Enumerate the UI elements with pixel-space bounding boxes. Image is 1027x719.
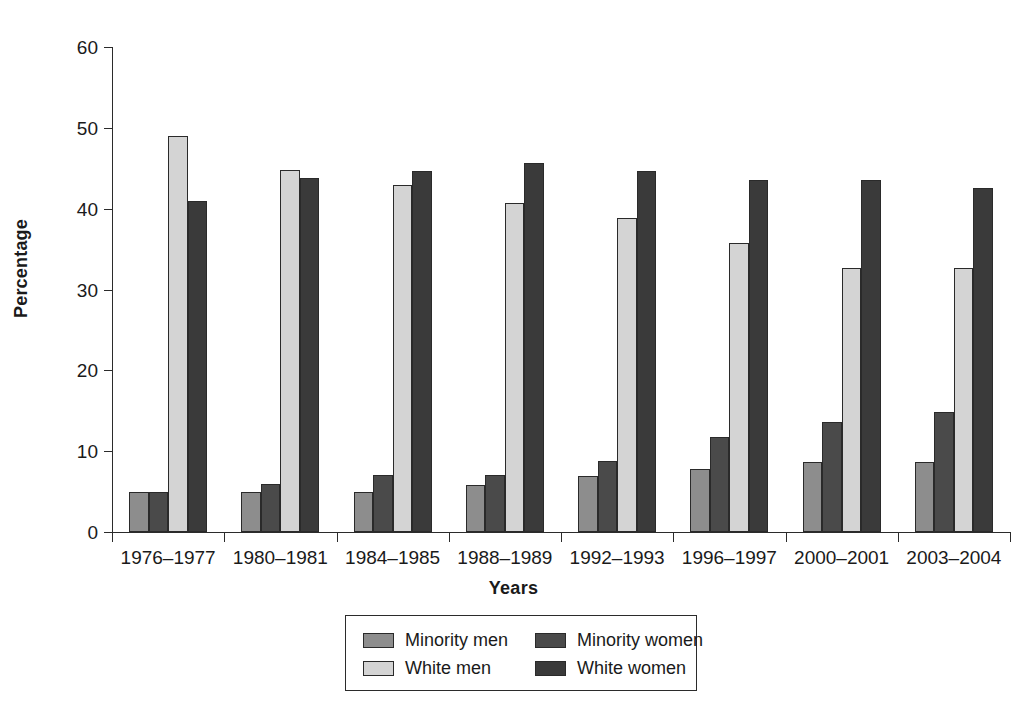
x-tick-label: 2003–2004: [894, 548, 1014, 567]
legend-swatch-icon: [535, 633, 566, 648]
x-tick-mark: [224, 533, 225, 542]
bar-white-women-2003–2004: [973, 188, 993, 532]
bar-white-men-1996–1997: [729, 243, 749, 532]
x-tick-label: 1988–1989: [445, 548, 565, 567]
bar-minority-men-1996–1997: [690, 469, 710, 532]
y-tick-label: 0: [38, 523, 98, 542]
bar-minority-women-2000–2001: [822, 422, 842, 532]
legend-label: Minority men: [405, 631, 508, 649]
bar-white-men-1980–1981: [280, 170, 300, 532]
bar-white-men-1984–1985: [393, 185, 413, 532]
legend: Minority menMinority womenWhite menWhite…: [345, 615, 697, 691]
legend-label: White men: [405, 659, 491, 677]
bar-white-men-1992–1993: [617, 218, 637, 532]
x-tick-mark: [898, 533, 899, 542]
x-tick-label: 1992–1993: [557, 548, 677, 567]
legend-swatch-icon: [363, 661, 394, 676]
bar-minority-men-1992–1993: [578, 476, 598, 532]
bar-minority-women-1980–1981: [261, 484, 281, 533]
y-axis-title: Percentage: [11, 219, 32, 318]
x-tick-mark: [1010, 533, 1011, 542]
bar-white-men-1988–1989: [505, 203, 525, 532]
bar-minority-women-2003–2004: [934, 412, 954, 532]
x-axis-title: Years: [0, 578, 1027, 599]
x-tick-label: 1996–1997: [669, 548, 789, 567]
bar-white-women-1996–1997: [749, 180, 769, 532]
legend-entry-minority-women: Minority women: [535, 631, 685, 649]
bar-white-women-1988–1989: [524, 163, 544, 532]
bar-white-women-1992–1993: [637, 171, 657, 532]
y-tick-label: 30: [38, 281, 98, 300]
x-tick-mark: [337, 533, 338, 542]
bar-white-men-2000–2001: [842, 268, 862, 532]
legend-swatch-icon: [535, 661, 566, 676]
bar-chart: Percentage 0102030405060 1976–19771980–1…: [0, 0, 1027, 719]
legend-label: White women: [577, 659, 686, 677]
legend-entry-minority-men: Minority men: [363, 631, 535, 649]
legend-entry-white-men: White men: [363, 659, 535, 677]
bar-minority-men-2000–2001: [803, 462, 823, 532]
bar-minority-women-1976–1977: [149, 492, 169, 532]
bar-minority-men-1976–1977: [129, 492, 149, 532]
x-tick-mark: [786, 533, 787, 542]
x-tick-label: 1976–1977: [108, 548, 228, 567]
bar-minority-women-1996–1997: [710, 437, 730, 532]
y-tick-label: 50: [38, 119, 98, 138]
x-tick-mark: [112, 533, 113, 542]
bar-minority-women-1988–1989: [485, 475, 505, 532]
bar-minority-women-1992–1993: [598, 461, 618, 532]
legend-swatch-icon: [363, 633, 394, 648]
y-tick-label: 20: [38, 361, 98, 380]
x-tick-label: 2000–2001: [782, 548, 902, 567]
bar-minority-men-1988–1989: [466, 485, 486, 532]
legend-entry-white-women: White women: [535, 659, 685, 677]
bar-white-women-1980–1981: [300, 178, 320, 532]
x-tick-mark: [449, 533, 450, 542]
plot-area: [112, 47, 1010, 532]
bar-minority-men-1984–1985: [354, 492, 374, 532]
y-tick-label: 40: [38, 200, 98, 219]
x-tick-label: 1984–1985: [333, 548, 453, 567]
bar-white-women-2000–2001: [861, 180, 881, 532]
x-tick-label: 1980–1981: [220, 548, 340, 567]
bar-white-women-1984–1985: [412, 171, 432, 532]
bar-minority-men-1980–1981: [241, 492, 261, 532]
bar-white-men-2003–2004: [954, 268, 974, 532]
y-tick-label: 10: [38, 442, 98, 461]
bar-minority-women-1984–1985: [373, 475, 393, 532]
y-tick-label: 60: [38, 38, 98, 57]
x-tick-mark: [561, 533, 562, 542]
x-tick-mark: [673, 533, 674, 542]
legend-label: Minority women: [577, 631, 703, 649]
bar-white-men-1976–1977: [168, 136, 188, 532]
bar-minority-men-2003–2004: [915, 462, 935, 532]
bar-white-women-1976–1977: [188, 201, 208, 532]
